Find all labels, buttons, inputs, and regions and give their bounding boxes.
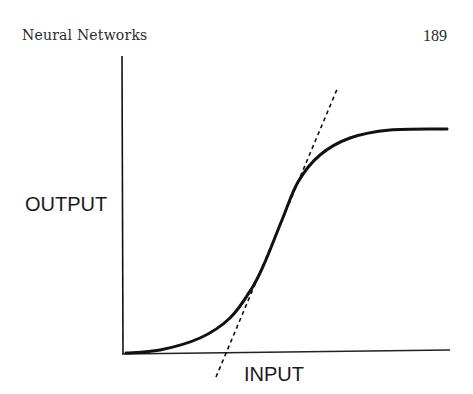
x-axis: [122, 350, 450, 354]
cut-off-body-text: [0, 388, 473, 394]
sigmoid-curve: [126, 129, 447, 353]
y-axis: [122, 56, 123, 354]
y-axis-label: OUTPUT: [25, 193, 107, 215]
x-axis-label: INPUT: [244, 363, 304, 385]
sigmoid-figure: OUTPUT INPUT: [0, 0, 473, 394]
